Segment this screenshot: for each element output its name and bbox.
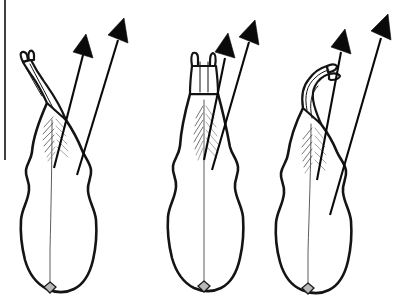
diagram-canvas bbox=[0, 0, 403, 307]
apex-prong-outer-left bbox=[21, 52, 28, 62]
apex-prong-inner-left bbox=[28, 51, 34, 60]
apex-prong-right-middle bbox=[210, 53, 216, 66]
apex-stalk-middle bbox=[190, 66, 218, 94]
apex-prong-lower-right bbox=[329, 73, 340, 80]
apex-prong-left-middle bbox=[191, 53, 198, 66]
